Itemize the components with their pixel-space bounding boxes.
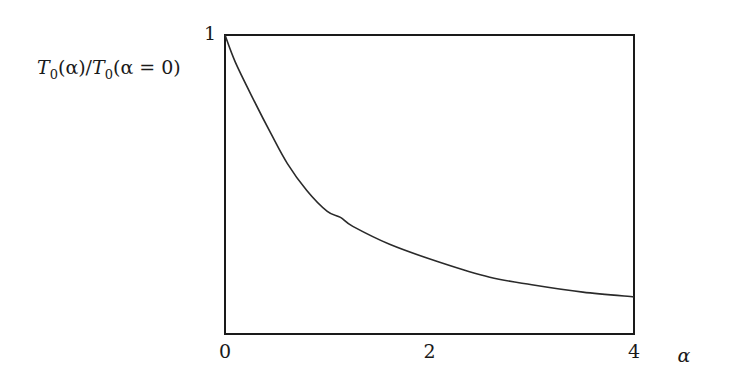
x-axis-label: α bbox=[678, 344, 691, 366]
plot-frame bbox=[225, 35, 634, 334]
x-tick-label: 0 bbox=[219, 340, 231, 362]
x-tick-labels: 0 2 4 bbox=[219, 340, 640, 362]
y-tick-label: 1 bbox=[204, 22, 216, 44]
x-tick-label: 2 bbox=[423, 340, 435, 362]
x-tick-label: 4 bbox=[628, 340, 640, 362]
chart: 0 2 4 1 α T0(α)/T0(α = 0) bbox=[0, 0, 732, 379]
y-axis-label: T0(α)/T0(α = 0) bbox=[37, 56, 181, 82]
data-curve bbox=[225, 35, 634, 297]
